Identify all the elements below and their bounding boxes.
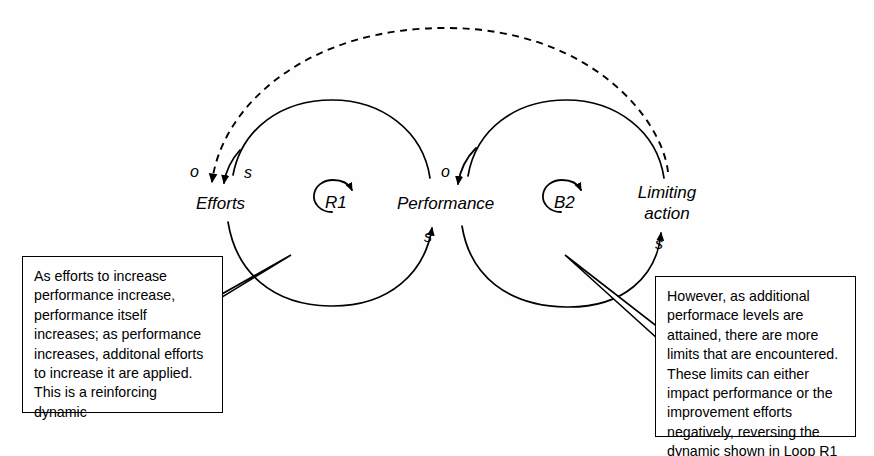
callout-box-right[interactable]: However, as additional performace levels…	[655, 276, 856, 437]
node-efforts[interactable]: Efforts	[196, 193, 245, 214]
arrowhead-into-performance-solid	[458, 148, 476, 184]
node-limiting-action-line2: action	[625, 203, 709, 224]
node-limiting-action[interactable]: Limiting action	[625, 182, 709, 224]
callout-box-left[interactable]: As efforts to increase performance incre…	[22, 256, 223, 413]
link-performance-to-limiting-upper	[468, 100, 664, 178]
link-performance-to-limiting-lower	[462, 226, 661, 307]
link-efforts-to-performance-upper	[233, 100, 430, 178]
arrowhead-into-efforts-solid	[224, 150, 240, 183]
link-performance-to-efforts-lower	[228, 222, 432, 306]
polarity-label-limiting-s: s	[655, 235, 663, 253]
node-limiting-action-line1: Limiting	[625, 182, 709, 203]
polarity-label-performance-s: s	[424, 228, 432, 246]
node-performance[interactable]: Performance	[397, 193, 494, 214]
loop-label-b2[interactable]: B2	[554, 193, 575, 213]
polarity-label-performance-o: o	[441, 163, 450, 181]
polarity-label-efforts-o: o	[190, 163, 199, 181]
causal-loop-diagram: Efforts Performance Limiting action R1 B…	[0, 0, 874, 456]
polarity-label-efforts-s: s	[244, 164, 252, 182]
loop-label-r1[interactable]: R1	[325, 193, 347, 213]
